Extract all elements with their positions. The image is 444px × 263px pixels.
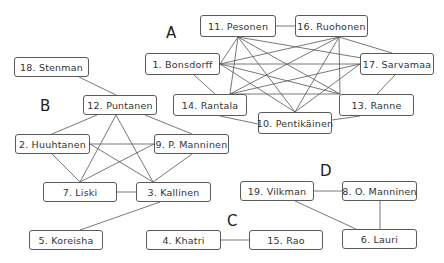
node-3: 3. Kallinen (136, 182, 211, 202)
edge (79, 77, 116, 95)
edge (80, 202, 160, 230)
edge (153, 154, 192, 182)
node-label: 6. Lauri (361, 234, 398, 245)
node-label: 3. Kallinen (148, 187, 200, 198)
node-label: 19. Vilkman (248, 186, 307, 197)
node-label: 16. Ruohonen (297, 21, 365, 32)
node-label: 4. Khatri (162, 235, 204, 246)
edge-layer (0, 0, 444, 263)
node-label: 11. Pesonen (208, 21, 268, 32)
node-9: 9. P. Manninen (154, 134, 229, 154)
node-14: 14. Rantala (173, 94, 247, 116)
edge (332, 116, 360, 120)
node-15: 15. Rao (249, 230, 323, 250)
node-2: 2. Huuhtanen (15, 134, 90, 154)
edge (220, 37, 238, 64)
node-label: 2. Huuhtanen (19, 139, 86, 150)
node-label: 14. Rantala (182, 100, 239, 111)
node-13: 13. Ranne (339, 94, 414, 116)
node-8: 8. O. Manninen (342, 181, 417, 201)
node-19: 19. Vilkman (240, 181, 314, 201)
cluster-label-d: D (320, 162, 332, 180)
node-6: 6. Lauri (342, 229, 417, 249)
node-18: 18. Stenman (14, 57, 89, 77)
node-11: 11. Pesonen (200, 15, 276, 37)
edge (377, 75, 395, 94)
edge (52, 154, 80, 182)
node-label: 9. P. Manninen (156, 139, 228, 150)
node-4: 4. Khatri (146, 230, 221, 250)
node-5: 5. Koreisha (29, 230, 103, 250)
edge (230, 37, 238, 94)
edge (116, 115, 153, 182)
cluster-label-c: C (227, 212, 237, 230)
edge (339, 37, 340, 94)
edge (145, 115, 192, 134)
node-label: 18. Stenman (20, 62, 83, 73)
node-17: 17. Sarvamaa (360, 53, 434, 75)
node-label: 10. Pentikäinen (257, 118, 333, 129)
node-10: 10. Pentikäinen (258, 112, 332, 134)
node-7: 7. Liski (43, 182, 117, 202)
node-16: 16. Ruohonen (295, 15, 368, 37)
cluster-label-b: B (40, 97, 50, 115)
node-label: 17. Sarvamaa (363, 59, 432, 70)
network-diagram: ABCD 11. Pesonen16. Ruohonen1. Bonsdorff… (0, 0, 444, 263)
edge (52, 115, 97, 134)
node-12: 12. Puntanen (83, 95, 157, 115)
node-label: 15. Rao (267, 235, 305, 246)
node-label: 7. Liski (63, 187, 98, 198)
node-label: 5. Koreisha (39, 235, 94, 246)
node-label: 13. Ranne (351, 100, 401, 111)
edge (194, 75, 215, 94)
node-1: 1. Bonsdorff (145, 53, 220, 75)
node-label: 8. O. Manninen (342, 186, 417, 197)
edge (339, 37, 392, 53)
node-label: 1. Bonsdorff (152, 59, 212, 70)
edge (220, 116, 258, 124)
cluster-label-a: A (166, 24, 176, 42)
edge (295, 201, 356, 229)
node-label: 12. Puntanen (87, 100, 153, 111)
